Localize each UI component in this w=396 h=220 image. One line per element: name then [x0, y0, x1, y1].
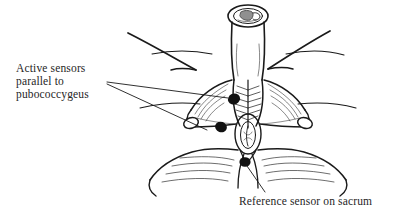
anatomical-figure: Active sensors parallel to pubococcygeus…	[0, 0, 396, 220]
figure-background	[0, 0, 396, 220]
anatomy-illustration	[0, 0, 396, 220]
label-active-sensors: Active sensors parallel to pubococcygeus	[16, 62, 89, 102]
label-active-sensors-line-1: Active sensors	[16, 62, 89, 75]
label-reference-sensor: Reference sensor on sacrum	[239, 195, 372, 208]
label-active-sensors-line-3: pubococcygeus	[16, 88, 89, 101]
glans-detail	[228, 5, 268, 27]
reference-sensor-sacral-marker	[239, 157, 250, 167]
label-active-sensors-line-2: parallel to	[16, 75, 89, 88]
